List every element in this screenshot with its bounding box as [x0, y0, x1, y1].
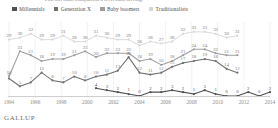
data-point [138, 72, 140, 74]
data-label: 21 [235, 49, 240, 54]
data-point [215, 60, 217, 62]
data-label: 32 [28, 27, 33, 32]
legend-label-generation-x: Generation X [61, 6, 91, 12]
data-label: 19 [50, 52, 55, 57]
data-point [62, 58, 64, 60]
x-tick-label: 2012 [239, 99, 249, 105]
legend-item-baby-boomers[interactable]: Baby boomers [100, 6, 140, 12]
data-point [117, 39, 119, 41]
x-tick-label: 2002 [108, 99, 118, 105]
legend-swatch-traditionalists [149, 7, 154, 12]
data-point [84, 50, 86, 52]
data-point [247, 91, 249, 93]
data-point [149, 58, 151, 60]
data-label: 12 [159, 66, 164, 71]
data-point [19, 85, 21, 87]
legend-label-traditionalists: Traditionalists [156, 6, 188, 12]
data-label: 24 [202, 43, 207, 48]
data-point [182, 62, 184, 64]
data-point [30, 81, 32, 83]
data-point [138, 60, 140, 62]
data-label: 7 [30, 76, 33, 81]
data-label: 28 [72, 35, 77, 40]
data-label: 3 [171, 84, 174, 89]
data-label: 8 [84, 74, 87, 79]
data-label: 11 [105, 68, 110, 73]
legend-item-millennials[interactable]: Millennials [12, 6, 45, 12]
data-label: 28 [83, 35, 88, 40]
data-point [171, 40, 173, 42]
data-point [128, 56, 130, 58]
data-point [204, 58, 206, 60]
data-label: 13 [115, 64, 120, 69]
data-label: 10 [94, 70, 99, 75]
data-point [225, 54, 227, 56]
data-label: 21 [28, 49, 33, 54]
legend-label-baby-boomers: Baby boomers [107, 6, 140, 12]
legend-item-traditionalists[interactable]: Traditionalists [149, 6, 188, 12]
data-label: 8 [51, 74, 54, 79]
data-point [269, 91, 271, 93]
data-point [236, 72, 238, 74]
data-label: 2 [149, 86, 152, 91]
data-label: 26 [137, 39, 142, 44]
data-label: 30 [17, 31, 22, 36]
data-label: 0 [138, 89, 141, 94]
data-label: 0 [258, 89, 261, 94]
caption-strip: with this chart comparison a level each … [0, 0, 278, 5]
data-label: 24 [191, 43, 196, 48]
data-label: 10 [72, 70, 77, 75]
series-line-generation-x [9, 57, 237, 86]
data-label: 1 [193, 87, 196, 92]
data-point [149, 40, 151, 42]
data-label: 18 [213, 54, 218, 59]
data-label: 2 [117, 86, 120, 91]
data-point [193, 60, 195, 62]
data-label: 19 [202, 52, 207, 57]
data-label: 33 [191, 25, 196, 30]
data-label: 3 [204, 84, 207, 89]
data-label: 19 [61, 52, 66, 57]
data-point [62, 35, 64, 37]
data-point [171, 89, 173, 91]
chart-legend: Millennials Generation X Baby boomers Tr… [12, 6, 188, 12]
data-label: 15 [170, 60, 175, 65]
data-label: 29 [126, 33, 131, 38]
data-label: 29 [115, 33, 120, 38]
data-point [95, 35, 97, 37]
x-tick-label: 2000 [82, 99, 92, 105]
data-label: 5 [19, 80, 22, 85]
data-point [215, 33, 217, 35]
data-label: 21 [181, 49, 186, 54]
data-label: 31 [61, 29, 66, 34]
data-point [117, 91, 119, 93]
data-point [117, 52, 119, 54]
data-point [149, 91, 151, 93]
data-point [225, 68, 227, 70]
gallup-chart-figure: with this chart comparison a level each … [0, 0, 278, 128]
data-point [182, 91, 184, 93]
data-label: 30 [224, 31, 229, 36]
data-label: 14 [224, 62, 229, 67]
data-point [41, 72, 43, 74]
data-point [30, 33, 32, 35]
data-point [19, 50, 21, 52]
data-point [225, 37, 227, 39]
data-label: 17 [181, 56, 186, 61]
data-point [51, 58, 53, 60]
data-label: 32 [181, 27, 186, 32]
data-point [84, 79, 86, 81]
data-label: 12 [39, 66, 44, 71]
x-tick-label: 2006 [160, 99, 170, 105]
data-label: 12 [235, 66, 240, 71]
data-label: 21 [224, 49, 229, 54]
data-label: 20 [126, 51, 131, 56]
data-point [193, 31, 195, 33]
data-label: 22 [213, 47, 218, 52]
data-label: 31 [94, 29, 99, 34]
data-label: 0 [225, 89, 228, 94]
x-tick-label: 1994 [4, 99, 14, 105]
data-point [95, 75, 97, 77]
data-label: 2 [247, 86, 250, 91]
legend-item-generation-x[interactable]: Generation X [54, 6, 91, 12]
